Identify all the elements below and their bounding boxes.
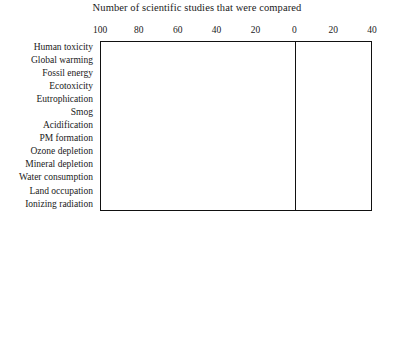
- x-tick-40-3: 40: [212, 25, 222, 35]
- category-axis-labels: Human toxicityGlobal warmingFossil energ…: [0, 41, 97, 211]
- chart-title: Number of scientific studies that were c…: [0, 2, 394, 13]
- x-tick-20-6: 20: [328, 25, 338, 35]
- category-label: Ozone depletion: [0, 145, 97, 158]
- category-label: Eutrophication: [0, 93, 97, 106]
- category-label: Acidification: [0, 119, 97, 132]
- category-label: Smog: [0, 106, 97, 119]
- category-label: Ionizing radiation: [0, 198, 97, 211]
- category-label: Global warming: [0, 54, 97, 67]
- category-label: PM formation: [0, 132, 97, 145]
- category-label: Ecotoxicity: [0, 80, 97, 93]
- plot-area: [100, 41, 372, 211]
- lca-comparison-chart: Number of scientific studies that were c…: [0, 0, 394, 342]
- category-label: Land occupation: [0, 185, 97, 198]
- category-label: Human toxicity: [0, 41, 97, 54]
- category-label: Water consumption: [0, 171, 97, 184]
- x-tick-40-7: 40: [367, 25, 377, 35]
- category-label: Fossil energy: [0, 67, 97, 80]
- x-axis-tick-labels: 1008060402002040: [0, 25, 394, 37]
- x-tick-80-1: 80: [134, 25, 144, 35]
- x-tick-0-5: 0: [292, 25, 297, 35]
- category-label: Mineral depletion: [0, 158, 97, 171]
- x-tick-100-0: 100: [93, 25, 107, 35]
- zero-axis-line: [295, 42, 296, 210]
- x-tick-60-2: 60: [173, 25, 183, 35]
- x-tick-20-4: 20: [251, 25, 261, 35]
